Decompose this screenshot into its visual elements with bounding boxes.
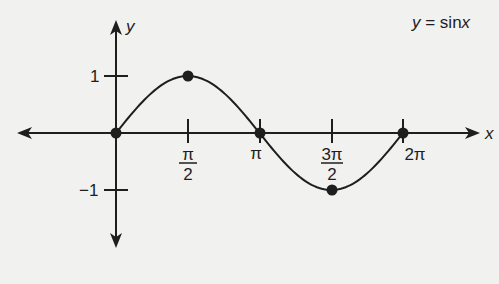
y-tick-label-1: 1 (90, 67, 99, 86)
equation-x: x (461, 13, 471, 32)
y-axis-label: y (125, 17, 136, 36)
x-axis-label: x (484, 124, 494, 143)
point-max (183, 71, 194, 82)
x-tick-label-2pi: 2π (404, 145, 425, 164)
point-min (327, 185, 338, 196)
point-pi (255, 128, 266, 139)
x-tick-label-3pi-half-num: 3π (321, 145, 342, 164)
point-2pi (398, 128, 409, 139)
x-tick-label-pi-half-den: 2 (183, 165, 192, 184)
equation-label: y = sinx (411, 13, 471, 32)
equation-sin: = sin (421, 13, 462, 32)
x-tick-label-pi-half-num: π (182, 145, 194, 164)
point-origin (111, 128, 122, 139)
x-tick-label-3pi-half-den: 2 (327, 165, 336, 184)
sine-graph-figure: x y 1 −1 π 2 π 3π 2 (0, 0, 499, 284)
x-tick-label-pi: π (250, 144, 262, 163)
chart-canvas: x y 1 −1 π 2 π 3π 2 (0, 0, 499, 284)
y-tick-label-minus-1: −1 (79, 181, 98, 200)
